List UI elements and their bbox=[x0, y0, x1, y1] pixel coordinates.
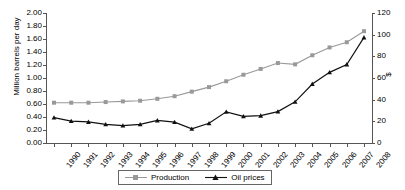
y-axis-right-tick-label: 20 bbox=[377, 116, 399, 125]
y-axis-left-tick-label: 0.60 bbox=[16, 99, 42, 108]
legend-marker-production bbox=[125, 173, 147, 182]
series-canvas bbox=[46, 13, 372, 147]
x-axis-tick-label: 1991 bbox=[82, 150, 100, 169]
data-point-marker bbox=[121, 99, 125, 103]
y-axis-left-tick-label: 1.40 bbox=[16, 47, 42, 56]
y-axis-right-tick-label: 0 bbox=[377, 138, 399, 147]
data-point-marker bbox=[310, 53, 314, 57]
data-point-marker bbox=[224, 79, 228, 83]
x-axis-tick-label: 1996 bbox=[168, 150, 186, 169]
y-axis-right-tick-label: 60 bbox=[377, 73, 399, 82]
data-point-marker bbox=[241, 73, 245, 77]
y-axis-left-tick-label: 2.00 bbox=[16, 8, 42, 17]
x-axis-tick-label: 2003 bbox=[288, 150, 306, 169]
data-point-marker bbox=[155, 97, 159, 101]
y-axis-left-tick-label: 1.60 bbox=[16, 34, 42, 43]
y-axis-right-tick-label: 40 bbox=[377, 95, 399, 104]
data-point-marker bbox=[69, 101, 73, 105]
data-point-marker bbox=[104, 100, 108, 104]
x-axis-tick-label: 2008 bbox=[374, 150, 392, 169]
y-axis-right-tick-label: 120 bbox=[377, 8, 399, 17]
data-point-marker bbox=[207, 85, 211, 89]
x-axis-tick-label: 1999 bbox=[219, 150, 237, 169]
x-axis-tick-label: 2005 bbox=[323, 150, 341, 169]
legend-label-oil-prices: Oil prices bbox=[231, 173, 264, 182]
x-axis-tick-label: 2007 bbox=[357, 150, 375, 169]
y-axis-right-tick-label: 100 bbox=[377, 30, 399, 39]
y-axis-left-tick-label: 0.40 bbox=[16, 112, 42, 121]
x-axis-tick-label: 1995 bbox=[150, 150, 168, 169]
data-point-marker bbox=[190, 90, 194, 94]
data-point-marker bbox=[328, 45, 332, 49]
data-point-marker bbox=[224, 109, 229, 113]
series-line-oil-prices bbox=[54, 37, 364, 128]
series-line-production bbox=[54, 31, 364, 103]
y-axis-left-tick-label: 1.80 bbox=[16, 21, 42, 30]
x-axis-tick-label: 2000 bbox=[237, 150, 255, 169]
legend-marker-oil-prices bbox=[205, 173, 227, 182]
y-axis-left-tick-label: 1.20 bbox=[16, 60, 42, 69]
y-axis-right-spine bbox=[372, 13, 373, 144]
y-axis-left-tick-label: 0.00 bbox=[16, 138, 42, 147]
data-point-marker bbox=[345, 40, 349, 44]
legend-item-production: Production bbox=[125, 173, 189, 182]
x-axis-tick-label: 1990 bbox=[64, 150, 82, 169]
x-axis-tick-label: 1998 bbox=[202, 150, 220, 169]
x-axis-tick-label: 2002 bbox=[271, 150, 289, 169]
x-axis-tick-label: 1997 bbox=[185, 150, 203, 169]
oil-production-price-chart: Million barrels per day $ 0.000.200.400.… bbox=[0, 0, 405, 190]
data-point-marker bbox=[52, 101, 56, 105]
data-point-marker bbox=[86, 101, 90, 105]
data-point-marker bbox=[138, 99, 142, 103]
legend-item-oil-prices: Oil prices bbox=[205, 173, 264, 182]
x-axis-tick-label: 2006 bbox=[340, 150, 358, 169]
data-point-marker bbox=[362, 35, 367, 39]
legend-label-production: Production bbox=[151, 173, 189, 182]
x-axis-tick-label: 2004 bbox=[305, 150, 323, 169]
x-axis-tick-label: 1994 bbox=[133, 150, 151, 169]
y-axis-right-tick-label: 80 bbox=[377, 51, 399, 60]
data-point-marker bbox=[173, 94, 177, 98]
chart-legend: Production Oil prices bbox=[118, 170, 272, 185]
y-axis-left-tick-label: 1.00 bbox=[16, 73, 42, 82]
data-point-marker bbox=[293, 62, 297, 66]
data-point-marker bbox=[362, 29, 366, 33]
plot-area bbox=[46, 13, 372, 143]
y-axis-left-tick-label: 0.20 bbox=[16, 125, 42, 134]
data-point-marker bbox=[276, 61, 280, 65]
x-axis-tick-label: 2001 bbox=[254, 150, 272, 169]
x-axis-tick-label: 1992 bbox=[99, 150, 117, 169]
y-axis-left-tick-label: 0.80 bbox=[16, 86, 42, 95]
x-axis-tick-label: 1993 bbox=[116, 150, 134, 169]
data-point-marker bbox=[259, 67, 263, 71]
